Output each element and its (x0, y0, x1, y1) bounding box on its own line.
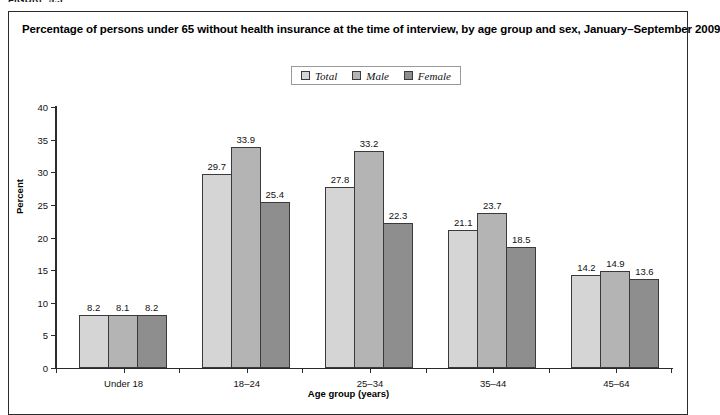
bar-total[interactable]: 8.2 (79, 315, 109, 369)
y-axis-tick-label: 10 (37, 297, 48, 308)
bar-male[interactable]: 33.9 (231, 147, 261, 368)
legend-label: Total (315, 70, 337, 82)
x-axis-tick-mark (493, 368, 494, 373)
bar-male[interactable]: 14.9 (600, 271, 630, 368)
x-axis-category-label: 35–44 (448, 378, 538, 389)
figure-number-label: FIGURE 5.3 (8, 0, 63, 2)
bar-value-label: 33.9 (237, 134, 256, 145)
legend-item-total: Total (301, 70, 337, 82)
legend-item-female: Female (404, 70, 451, 82)
bar-value-label: 33.2 (360, 138, 379, 149)
chart-title: Percentage of persons under 65 without h… (22, 23, 720, 35)
x-axis-title: Age group (years) (0, 388, 697, 399)
bar-value-label: 18.5 (512, 234, 531, 245)
bar-cluster: 8.28.18.2 (79, 107, 167, 368)
bar-cluster: 27.833.222.3 (325, 107, 413, 368)
bar-cluster: 29.733.925.4 (202, 107, 290, 368)
bar-cluster: 21.123.718.5 (448, 107, 536, 368)
y-axis-tick-mark (51, 270, 56, 271)
y-axis-tick-label: 20 (37, 232, 48, 243)
bar-group: 27.833.222.3 (325, 107, 415, 368)
bar-value-label: 25.4 (266, 189, 285, 200)
y-axis-tick-mark (51, 205, 56, 206)
bar-value-label: 21.1 (454, 217, 473, 228)
x-axis-boundary-tick (549, 368, 550, 373)
y-axis-tick-mark (51, 107, 56, 108)
legend-label: Male (366, 70, 389, 82)
x-axis-category-label: Under 18 (79, 378, 169, 389)
bar-value-label: 23.7 (483, 200, 502, 211)
bar-value-label: 8.2 (145, 302, 158, 313)
x-axis-category-label: 45–64 (571, 378, 661, 389)
y-axis-tick-mark (51, 335, 56, 336)
y-axis-title: Percent (14, 179, 25, 214)
legend-swatch-female (404, 71, 413, 80)
x-axis-category-label: 25–34 (325, 378, 415, 389)
y-axis-tick-label: 40 (37, 102, 48, 113)
plot-area: 05101520253035408.28.18.2Under 1829.733.… (56, 107, 672, 368)
bar-total[interactable]: 27.8 (325, 187, 355, 368)
y-axis-tick-label: 25 (37, 199, 48, 210)
bar-total[interactable]: 21.1 (448, 230, 478, 368)
y-axis-tick-label: 35 (37, 134, 48, 145)
bar-group: 14.214.913.6 (571, 107, 661, 368)
bar-cluster: 14.214.913.6 (571, 107, 659, 368)
bar-male[interactable]: 33.2 (354, 151, 384, 368)
chart-legend: TotalMaleFemale (291, 66, 461, 85)
legend-item-male: Male (352, 70, 389, 82)
bar-group: 21.123.718.5 (448, 107, 538, 368)
bar-female[interactable]: 8.2 (137, 315, 167, 369)
y-axis-tick-label: 15 (37, 265, 48, 276)
y-axis-tick-label: 0 (43, 363, 48, 374)
x-axis-tick-mark (370, 368, 371, 373)
x-axis-boundary-tick (56, 368, 57, 373)
bar-total[interactable]: 29.7 (202, 174, 232, 368)
x-axis-boundary-tick (302, 368, 303, 373)
bar-female[interactable]: 13.6 (629, 279, 659, 368)
x-axis-tick-mark (616, 368, 617, 373)
y-axis-tick-label: 30 (37, 167, 48, 178)
bar-male[interactable]: 23.7 (477, 213, 507, 368)
bar-female[interactable]: 22.3 (383, 223, 413, 369)
bar-value-label: 14.2 (577, 262, 596, 273)
bar-value-label: 29.7 (208, 161, 227, 172)
bar-female[interactable]: 18.5 (506, 247, 536, 368)
y-axis-tick-mark (51, 303, 56, 304)
legend-swatch-total (301, 71, 310, 80)
y-axis-tick-mark (51, 172, 56, 173)
bar-value-label: 22.3 (389, 210, 408, 221)
bar-female[interactable]: 25.4 (260, 202, 290, 368)
x-axis-boundary-tick (179, 368, 180, 373)
bar-group: 29.733.925.4 (202, 107, 292, 368)
x-axis-category-label: 18–24 (202, 378, 292, 389)
x-axis-boundary-tick (671, 368, 672, 373)
legend-swatch-male (352, 71, 361, 80)
x-axis-tick-mark (247, 368, 248, 373)
x-axis-tick-mark (124, 368, 125, 373)
y-axis-tick-mark (51, 238, 56, 239)
bar-value-label: 13.6 (635, 266, 654, 277)
bar-value-label: 14.9 (606, 258, 625, 269)
bar-total[interactable]: 14.2 (571, 275, 601, 368)
y-axis-tick-label: 5 (43, 330, 48, 341)
legend-label: Female (418, 70, 451, 82)
bar-value-label: 8.2 (87, 302, 100, 313)
bar-value-label: 27.8 (331, 174, 350, 185)
x-axis-boundary-tick (426, 368, 427, 373)
bar-value-label: 8.1 (116, 302, 129, 313)
bar-group: 8.28.18.2 (79, 107, 169, 368)
bar-male[interactable]: 8.1 (108, 315, 138, 368)
y-axis-tick-mark (51, 140, 56, 141)
